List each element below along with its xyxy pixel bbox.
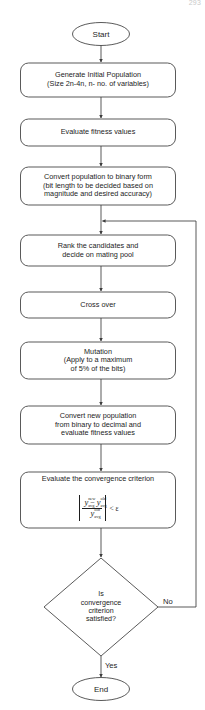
node-rank-shape [21, 235, 176, 266]
flowchart-shapes [0, 0, 205, 710]
formula-den-sub: avg [94, 515, 100, 520]
edge-label-no: No [163, 597, 173, 606]
convergence-formula: y new avg − y old avg y old avg < ε [22, 490, 174, 526]
formula-num-right-sub: avg [100, 504, 106, 509]
node-mutation-shape [21, 342, 176, 379]
node-convert-binary-shape [21, 167, 176, 205]
node-start-shape [73, 23, 130, 46]
node-generate-shape [21, 63, 176, 97]
formula-num-right-var: y old avg [97, 498, 101, 507]
formula-den-var: y old avg [91, 509, 95, 518]
node-decision-shape [44, 558, 158, 656]
edge-label-yes: Yes [105, 661, 117, 670]
formula-num-left-sup: new [88, 497, 95, 502]
node-evaluate-fitness-shape [21, 119, 176, 146]
formula-comparison: < ε [109, 504, 118, 513]
formula-fraction: y new avg − y old avg y old avg [82, 498, 102, 518]
node-convert-decimal-shape [21, 406, 176, 444]
abs-bar-left [79, 495, 80, 521]
formula-num-left-var: y new avg [84, 498, 88, 507]
flowchart-canvas: 293 [0, 0, 205, 710]
formula-num-right-sup: old [100, 497, 106, 502]
formula-den-sup: old [94, 508, 100, 513]
formula-denominator: y old avg [89, 509, 97, 518]
node-end-shape [73, 678, 130, 701]
node-crossover-shape [21, 292, 176, 318]
formula-numerator: y new avg − y old avg [82, 498, 102, 507]
